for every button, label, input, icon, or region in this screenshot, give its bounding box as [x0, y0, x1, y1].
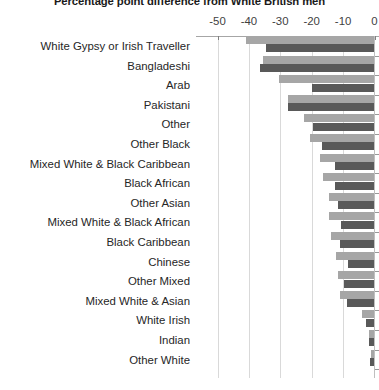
category-label: Pakistani: [0, 99, 190, 112]
y-axis-tick: [375, 271, 379, 272]
y-axis-tick: [375, 75, 379, 76]
category-label: Chinese: [0, 256, 190, 269]
y-axis-tick: [375, 56, 379, 57]
bar-series-b: [347, 299, 374, 307]
bar-series-b: [312, 84, 374, 92]
bar-series-b: [369, 338, 375, 346]
bar-series-a: [340, 291, 375, 299]
y-axis-tick: [375, 134, 379, 135]
bar-series-a: [288, 95, 375, 103]
x-axis-tick-0: [218, 36, 219, 40]
category-label: Other: [0, 118, 190, 131]
bar-series-a: [369, 330, 374, 338]
bar-series-b: [260, 64, 375, 72]
bar-series-b: [341, 221, 374, 229]
bar-series-a: [310, 134, 374, 142]
y-axis-tick: [375, 369, 379, 370]
y-axis-tick: [375, 114, 379, 115]
bar-series-a: [336, 252, 375, 260]
category-label: Other White: [0, 354, 190, 367]
category-label: White Irish: [0, 314, 190, 327]
category-label: Other Asian: [0, 197, 190, 210]
bar-series-a: [371, 350, 374, 358]
y-axis-tick: [375, 350, 379, 351]
bar-series-b: [322, 142, 374, 150]
bar-series-b: [288, 103, 374, 111]
y-axis-tick: [375, 232, 379, 233]
bar-series-a: [263, 56, 374, 64]
bar-series-b: [344, 280, 374, 288]
gridline-1: [249, 36, 250, 378]
y-axis-tick: [375, 252, 379, 253]
category-label: Black Caribbean: [0, 236, 190, 249]
category-label: Other Black: [0, 138, 190, 151]
bar-series-b: [313, 123, 375, 131]
category-label: Mixed White & Asian: [0, 295, 190, 308]
bar-chart: Percentage point difference from White B…: [0, 0, 379, 390]
bar-series-a: [338, 271, 374, 279]
y-axis-tick: [375, 330, 379, 331]
bar-series-a: [320, 154, 374, 162]
y-axis-tick: [375, 154, 379, 155]
x-axis-tick-5: [375, 36, 376, 40]
bar-series-a: [246, 36, 374, 44]
y-axis-tick: [375, 95, 379, 96]
bar-series-b: [335, 162, 375, 170]
category-label: Indian: [0, 334, 190, 347]
category-label: Mixed White & Black Caribbean: [0, 158, 190, 171]
bar-series-b: [370, 358, 374, 366]
bar-series-a: [331, 232, 374, 240]
bar-series-b: [266, 44, 374, 52]
bar-series-b: [338, 201, 374, 209]
y-axis-tick: [375, 310, 379, 311]
bar-series-a: [279, 75, 375, 83]
bar-series-b: [340, 240, 374, 248]
category-label: Arab: [0, 79, 190, 92]
category-label: Other Mixed: [0, 275, 190, 288]
bar-series-a: [329, 212, 374, 220]
bar-series-b: [366, 319, 375, 327]
y-axis-tick: [375, 173, 379, 174]
bar-series-a: [362, 310, 375, 318]
gridline-2: [280, 36, 281, 378]
y-axis-tick: [375, 291, 379, 292]
y-axis-tick: [375, 193, 379, 194]
category-label: Bangladeshi: [0, 60, 190, 73]
bar-series-b: [335, 182, 375, 190]
category-label: Mixed White & Black African: [0, 216, 190, 229]
y-axis-tick: [375, 212, 379, 213]
bar-series-a: [323, 173, 374, 181]
gridline-0: [218, 36, 219, 378]
bar-series-a: [329, 193, 375, 201]
category-label: Black African: [0, 177, 190, 190]
bar-series-b: [348, 260, 374, 268]
category-label: White Gypsy or Irish Traveller: [0, 40, 190, 53]
bar-series-a: [304, 114, 374, 122]
